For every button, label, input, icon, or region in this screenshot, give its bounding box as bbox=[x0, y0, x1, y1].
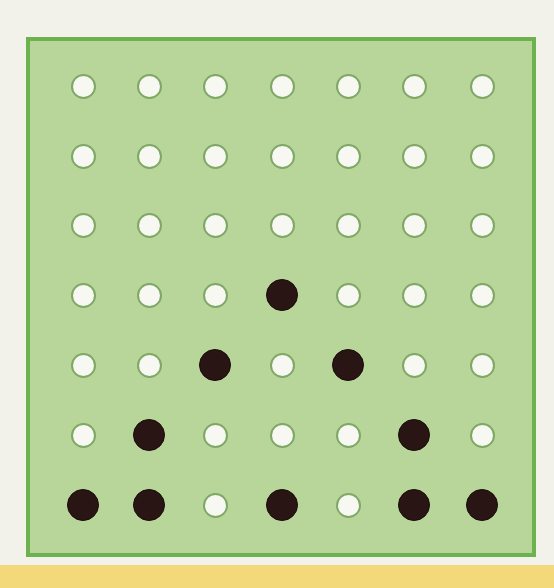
empty-hole[interactable] bbox=[137, 74, 162, 99]
empty-hole[interactable] bbox=[71, 74, 96, 99]
empty-hole[interactable] bbox=[137, 353, 162, 378]
empty-hole[interactable] bbox=[71, 144, 96, 169]
empty-hole[interactable] bbox=[470, 283, 495, 308]
empty-hole[interactable] bbox=[270, 74, 295, 99]
empty-hole[interactable] bbox=[71, 283, 96, 308]
empty-hole[interactable] bbox=[203, 423, 228, 448]
empty-hole[interactable] bbox=[71, 353, 96, 378]
empty-hole[interactable] bbox=[402, 144, 427, 169]
empty-hole[interactable] bbox=[470, 144, 495, 169]
empty-hole[interactable] bbox=[336, 493, 361, 518]
empty-hole[interactable] bbox=[203, 493, 228, 518]
empty-hole[interactable] bbox=[203, 74, 228, 99]
empty-hole[interactable] bbox=[470, 74, 495, 99]
black-peg[interactable] bbox=[199, 349, 231, 381]
bottom-band bbox=[0, 565, 554, 588]
empty-hole[interactable] bbox=[402, 213, 427, 238]
empty-hole[interactable] bbox=[336, 144, 361, 169]
empty-hole[interactable] bbox=[270, 353, 295, 378]
empty-hole[interactable] bbox=[71, 213, 96, 238]
black-peg[interactable] bbox=[67, 489, 99, 521]
game-board bbox=[26, 37, 536, 557]
empty-hole[interactable] bbox=[402, 353, 427, 378]
empty-hole[interactable] bbox=[470, 213, 495, 238]
empty-hole[interactable] bbox=[203, 213, 228, 238]
empty-hole[interactable] bbox=[336, 213, 361, 238]
empty-hole[interactable] bbox=[470, 423, 495, 448]
empty-hole[interactable] bbox=[270, 144, 295, 169]
black-peg[interactable] bbox=[466, 489, 498, 521]
empty-hole[interactable] bbox=[270, 423, 295, 448]
empty-hole[interactable] bbox=[137, 144, 162, 169]
empty-hole[interactable] bbox=[137, 283, 162, 308]
black-peg[interactable] bbox=[398, 489, 430, 521]
black-peg[interactable] bbox=[133, 489, 165, 521]
empty-hole[interactable] bbox=[470, 353, 495, 378]
black-peg[interactable] bbox=[266, 489, 298, 521]
empty-hole[interactable] bbox=[137, 213, 162, 238]
empty-hole[interactable] bbox=[402, 283, 427, 308]
empty-hole[interactable] bbox=[336, 423, 361, 448]
empty-hole[interactable] bbox=[336, 74, 361, 99]
black-peg[interactable] bbox=[133, 419, 165, 451]
empty-hole[interactable] bbox=[71, 423, 96, 448]
empty-hole[interactable] bbox=[270, 213, 295, 238]
black-peg[interactable] bbox=[332, 349, 364, 381]
empty-hole[interactable] bbox=[336, 283, 361, 308]
black-peg[interactable] bbox=[266, 279, 298, 311]
empty-hole[interactable] bbox=[203, 144, 228, 169]
empty-hole[interactable] bbox=[203, 283, 228, 308]
empty-hole[interactable] bbox=[402, 74, 427, 99]
black-peg[interactable] bbox=[398, 419, 430, 451]
